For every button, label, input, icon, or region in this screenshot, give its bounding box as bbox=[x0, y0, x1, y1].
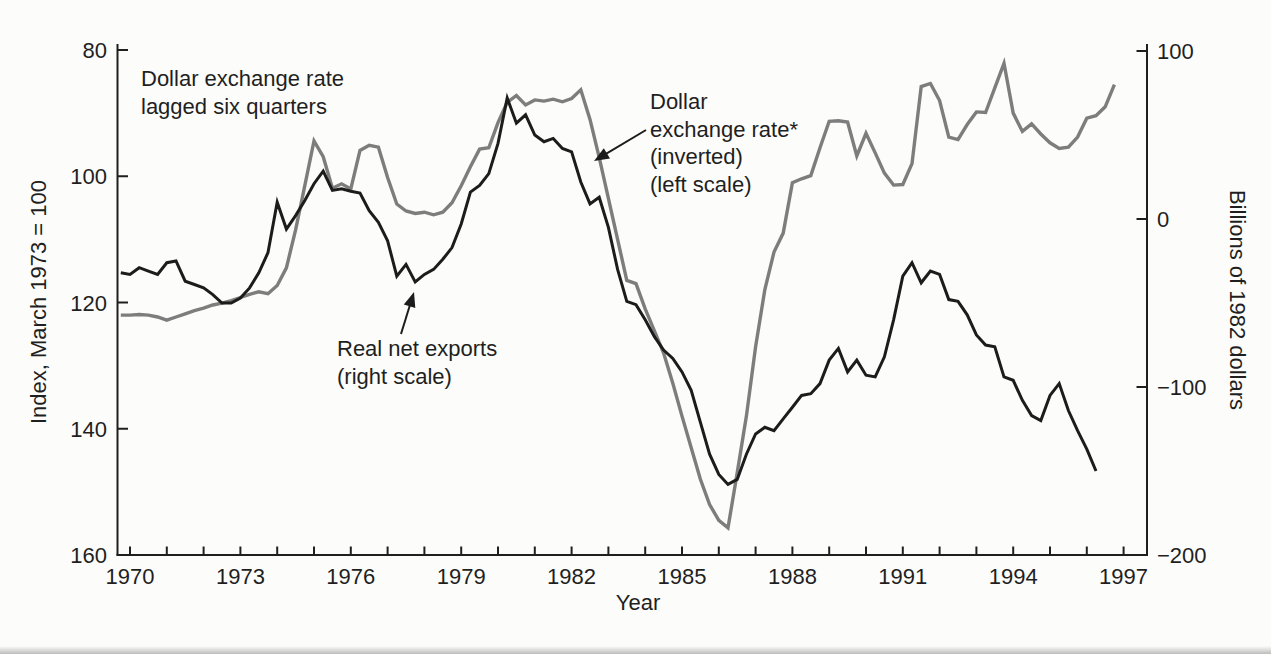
exchange-rate-label-text: (inverted) bbox=[650, 144, 743, 169]
x-axis-tick-label: 1994 bbox=[989, 564, 1038, 589]
left-axis-tick-label: 120 bbox=[70, 291, 107, 316]
x-axis-tick-label: 1997 bbox=[1099, 564, 1148, 589]
exchange-rate-label-text: exchange rate* bbox=[650, 117, 798, 142]
right-axis-tick-label: 0 bbox=[1157, 207, 1169, 232]
x-axis-tick-label: 1979 bbox=[437, 564, 486, 589]
figure-net-exports-vs-exchange-rate: 1970197319761979198219851988199119941997… bbox=[0, 0, 1271, 654]
chart-canvas: 1970197319761979198219851988199119941997… bbox=[0, 0, 1271, 654]
x-axis-tick-label: 1982 bbox=[547, 564, 596, 589]
lag-note-text: Dollar exchange rate bbox=[141, 66, 344, 91]
right-axis-tick-label: 100 bbox=[1157, 39, 1194, 64]
axes bbox=[117, 44, 1149, 556]
exchange-rate-label-arrow-shaft bbox=[603, 130, 646, 156]
left-axis-tick-label: 160 bbox=[70, 543, 107, 568]
right-axis-title: Billions of 1982 dollars bbox=[1225, 190, 1250, 410]
right-axis-tick-label: −100 bbox=[1157, 375, 1207, 400]
axis-tick-labels: 1970197319761979198219851988199119941997… bbox=[70, 38, 1206, 589]
x-axis-tick-label: 1985 bbox=[658, 564, 707, 589]
lag-note-text: lagged six quarters bbox=[141, 94, 327, 119]
x-axis-tick-label: 1976 bbox=[326, 564, 375, 589]
net-exports-label-text: (right scale) bbox=[337, 364, 452, 389]
series-lines bbox=[121, 63, 1115, 528]
right-axis-tick-label: −200 bbox=[1157, 543, 1207, 568]
exchange-rate-line bbox=[121, 63, 1115, 528]
x-axis-tick-label: 1970 bbox=[106, 564, 155, 589]
left-axis-tick-label: 100 bbox=[70, 164, 107, 189]
net-exports-label-arrow-shaft bbox=[401, 302, 411, 334]
annotations: Dollar exchange ratelagged six quartersD… bbox=[141, 66, 798, 389]
left-axis-tick-label: 140 bbox=[70, 417, 107, 442]
x-axis-tick-label: 1991 bbox=[878, 564, 927, 589]
left-axis-tick-label: 80 bbox=[83, 38, 107, 63]
exchange-rate-label-text: (left scale) bbox=[650, 172, 751, 197]
x-axis-title: Year bbox=[616, 590, 660, 615]
x-axis-tick-label: 1973 bbox=[216, 564, 265, 589]
exchange-rate-label-text: Dollar bbox=[650, 89, 707, 114]
net-exports-label-arrow-head bbox=[404, 292, 416, 308]
x-axis-tick-label: 1988 bbox=[768, 564, 817, 589]
left-axis-title: Index, March 1973 = 100 bbox=[26, 180, 51, 424]
net-exports-label-text: Real net exports bbox=[337, 336, 497, 361]
